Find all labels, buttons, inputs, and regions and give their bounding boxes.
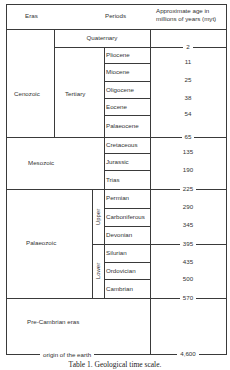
row-divider [104,81,150,82]
period-column-border [104,47,105,298]
row-divider [104,262,150,263]
header-age-line1: Approximate age in [156,7,209,15]
row-divider [104,170,150,171]
upper-lower-divider [92,244,150,245]
table-top-border [6,4,227,5]
header-age-line2: millions of years (myt) [156,15,216,23]
quaternary-label: Quaternary [54,34,150,42]
era-precambrian: Pre-Cambrian eras [27,318,79,326]
row-divider [104,208,150,209]
period-eocene: Eocene [106,103,127,111]
boundary-570: 570 [150,294,226,302]
lower-label: Lower [95,257,101,285]
age-290: 290 [150,203,226,211]
age-11: 11 [150,58,226,66]
header-periods: Periods [105,12,126,20]
age-190: 190 [150,166,226,174]
era-cenozoic: Cenozoic [14,90,40,98]
origin-label: origin of the earth [40,351,94,358]
boundary-value: 395 [180,240,196,248]
table-caption: Table 1. Geological time scale. [0,360,230,369]
tertiary-left-border [54,29,55,137]
table-left-border [6,4,7,355]
period-carboniferous: Carboniferous [106,213,145,221]
quaternary-bottom [54,47,150,48]
period-miocene: Miocene [106,68,129,76]
row-divider [104,279,150,280]
period-jurassic: Jurassic [106,158,129,166]
period-silurian: Silurian [106,249,127,257]
period-devonian: Devonian [106,231,132,239]
period-permian: Permian [106,194,129,202]
age-54: 54 [150,110,226,118]
age-500: 500 [150,275,226,283]
mesozoic-bottom [6,189,150,190]
age-135: 135 [150,148,226,156]
row-divider [104,98,150,99]
row-divider [104,63,150,64]
era-palaeozoic: Palaeozoic [26,239,56,247]
row-divider [104,115,150,116]
era-mesozoic: Mesozoic [28,159,54,167]
boundary-value: 4,600 [177,350,198,358]
age-435: 435 [150,258,226,266]
period-cretaceous: Cretaceous [106,141,138,149]
row-divider [104,226,150,227]
boundary-value: 65 [182,133,195,141]
header-eras: Eras [25,12,38,20]
boundary-4600: 4,600 [150,350,226,358]
origin-line-right [94,354,150,355]
period-oligocene: Oligocene [106,86,134,94]
period-ordovician: Ordovician [106,267,136,275]
period-palaeocene: Palaeocene [106,122,139,130]
period-trias: Trias [106,176,120,184]
origin-line-left [6,354,40,355]
cenozoic-bottom [6,137,150,138]
row-divider [104,153,150,154]
boundary-65: 65 [150,133,226,141]
boundary-225: 225 [150,185,226,193]
boundary-value: 2 [183,43,192,51]
age-25: 25 [150,76,226,84]
origin-line: origin of the earth [6,350,150,358]
period-cambrian: Cambrian [106,285,133,293]
age-38: 38 [150,94,226,102]
age-345: 345 [150,221,226,229]
sub-era-tertiary: Tertiary [65,90,85,98]
boundary-2: 2 [150,43,226,51]
boundary-value: 570 [180,294,196,302]
upper-label: Upper [95,203,101,231]
boundary-395: 395 [150,240,226,248]
period-pliocene: Pliocene [106,51,130,59]
table-right-border [226,4,227,355]
header-bottom-border [6,29,227,30]
boundary-value: 225 [180,185,196,193]
palaeozoic-bottom [6,298,150,299]
